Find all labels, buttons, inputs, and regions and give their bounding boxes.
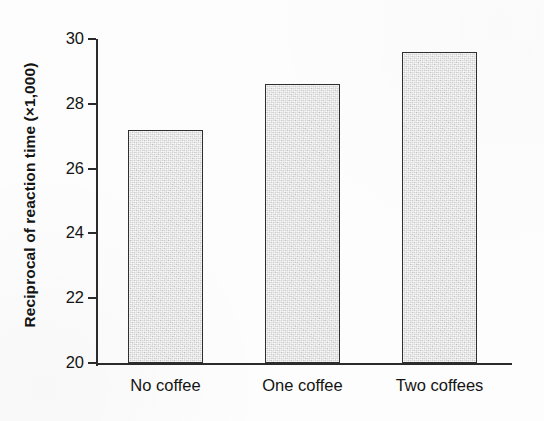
y-tick-mark (88, 103, 96, 105)
y-axis-title: Reciprocal of reaction time (×1,000) (21, 25, 39, 365)
y-axis-tick-labels: 30 28 26 24 22 20 (38, 0, 84, 421)
y-tick-label: 30 (40, 30, 84, 47)
y-tick-label: 20 (40, 354, 84, 371)
y-tick-label: 22 (40, 289, 84, 306)
bar-two-coffees (402, 52, 477, 363)
y-tick-mark (88, 38, 96, 40)
bar-no-coffee (128, 130, 203, 363)
plot-area (96, 30, 512, 365)
y-tick-label: 26 (40, 160, 84, 177)
y-tick-mark (88, 168, 96, 170)
bar-one-coffee (265, 84, 340, 363)
y-tick-label: 24 (40, 224, 84, 241)
y-tick-mark (88, 232, 96, 234)
y-axis-line (96, 39, 98, 366)
x-axis-line (96, 363, 512, 365)
y-tick-label: 28 (40, 95, 84, 112)
bar-chart: Reciprocal of reaction time (×1,000) 30 … (0, 0, 544, 421)
y-tick-mark (88, 297, 96, 299)
x-axis-category-label: Two coffees (355, 376, 525, 395)
y-tick-mark (88, 362, 96, 364)
